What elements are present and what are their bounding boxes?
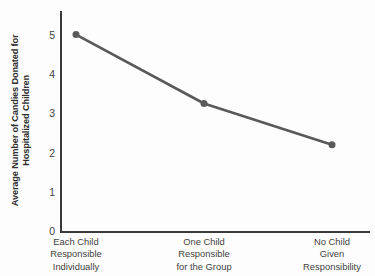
y-tick-label: 5 bbox=[49, 29, 55, 40]
series-marker-group bbox=[73, 31, 336, 148]
x-category-label: One ChildResponsiblefor the Group bbox=[176, 236, 231, 273]
x-category-label-line: Responsibility bbox=[303, 261, 361, 273]
y-tick-label: 2 bbox=[49, 147, 55, 158]
x-category-label-line: for the Group bbox=[176, 261, 231, 273]
x-category-label-line: Responsible bbox=[50, 248, 102, 260]
line-chart-figure: Average Number of Candies Donated for Ho… bbox=[0, 0, 375, 276]
y-tick-label: 1 bbox=[49, 187, 55, 198]
series-layer bbox=[60, 11, 370, 233]
y-axis-title: Average Number of Candies Donated for Ho… bbox=[0, 0, 44, 240]
x-category-label-line: Individually bbox=[50, 261, 102, 273]
x-category-label-line: Given bbox=[303, 248, 361, 260]
x-category-label-line: Each Child bbox=[50, 236, 102, 248]
y-tick-label: 4 bbox=[49, 69, 55, 80]
plot-area: 012345 bbox=[60, 11, 370, 233]
y-tick-label: 3 bbox=[49, 108, 55, 119]
y-axis-title-line-2: Hospitalized Children bbox=[22, 34, 33, 206]
series-data-point bbox=[329, 141, 336, 148]
x-category-label: No ChildGivenResponsibility bbox=[303, 236, 361, 273]
y-axis-title-line-1: Average Number of Candies Donated for bbox=[11, 34, 22, 206]
series-line bbox=[76, 35, 332, 145]
x-category-label-line: One Child bbox=[176, 236, 231, 248]
x-category-label: Each ChildResponsibleIndividually bbox=[50, 236, 102, 273]
series-data-point bbox=[73, 31, 80, 38]
x-category-label-line: No Child bbox=[303, 236, 361, 248]
x-category-label-line: Responsible bbox=[176, 248, 231, 260]
series-data-point bbox=[201, 100, 208, 107]
